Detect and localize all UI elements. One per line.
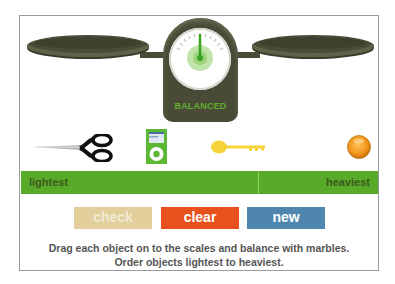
- check-button[interactable]: check: [74, 207, 152, 229]
- lightest-label: lightest: [29, 176, 68, 188]
- marble-icon: [347, 135, 371, 159]
- scissors-icon: [34, 134, 114, 162]
- instruction-line-1: Drag each object on to the scales and ba…: [19, 241, 379, 255]
- ipod-object[interactable]: [146, 129, 167, 168]
- left-pan[interactable]: [27, 35, 149, 57]
- new-button[interactable]: new: [247, 207, 325, 229]
- order-bar-divider: [258, 171, 259, 194]
- order-bar[interactable]: lightest heaviest: [21, 171, 378, 194]
- heaviest-label: heaviest: [326, 176, 370, 188]
- key-object[interactable]: [211, 139, 267, 159]
- ipod-icon: [146, 129, 167, 164]
- key-icon: [211, 139, 267, 155]
- marble-object[interactable]: [347, 135, 371, 163]
- balance-status: BALANCED: [163, 101, 238, 111]
- dial-gauge-icon: [169, 28, 231, 90]
- clear-button[interactable]: clear: [161, 207, 239, 229]
- scissors-object[interactable]: [34, 134, 114, 166]
- instructions: Drag each object on to the scales and ba…: [19, 241, 379, 269]
- right-pan[interactable]: [252, 35, 374, 57]
- scale-dial: [169, 28, 231, 90]
- instruction-line-2: Order objects lightest to heaviest.: [19, 255, 379, 269]
